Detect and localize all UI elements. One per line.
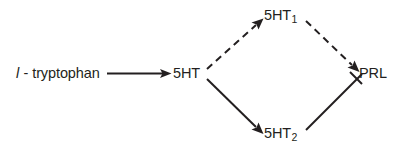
node-text: 5HT xyxy=(173,65,200,81)
edge-5ht-to-5ht1 xyxy=(207,19,264,70)
tryptophan-name: - tryptophan xyxy=(20,65,100,81)
edge-line xyxy=(207,25,256,69)
edge-line xyxy=(306,74,362,130)
node-label-5ht2: 5HT2 xyxy=(264,126,297,141)
edge-line xyxy=(306,21,352,65)
node-subscript: 1 xyxy=(291,13,297,25)
node-label-5ht1: 5HT1 xyxy=(264,8,297,23)
node-text: 5HT xyxy=(264,7,291,23)
node-subscript: 2 xyxy=(291,131,297,143)
node-label-tryptophan: l - tryptophan xyxy=(16,66,100,81)
edge-5ht-to-5ht2 xyxy=(207,79,264,134)
edge-line xyxy=(207,79,256,127)
edge-tryptophan-to-5ht xyxy=(107,69,172,78)
edge-5ht2-to-prl xyxy=(306,72,362,130)
pathway-diagram: l - tryptophan 5HT 5HT1 5HT2 PRL xyxy=(0,0,400,153)
node-text: 5HT xyxy=(264,125,291,141)
node-label-5ht: 5HT xyxy=(173,66,200,81)
node-text: PRL xyxy=(359,65,387,81)
node-label-prl: PRL xyxy=(359,66,387,81)
edge-5ht1-to-prl xyxy=(306,21,360,72)
arrowhead xyxy=(348,61,360,73)
